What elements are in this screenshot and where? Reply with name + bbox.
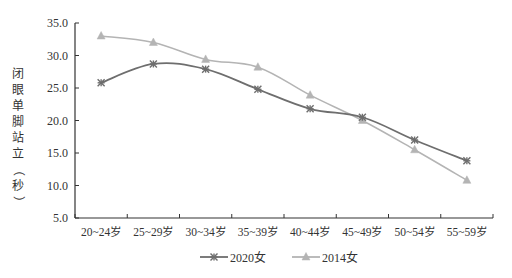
series-2014女 [97,32,471,184]
y-tick-label: 30.0 [47,49,68,63]
y-label-char: 站 [12,130,24,146]
x-axis: 20~24岁25~29岁30~34岁35~39岁40~44岁45~49岁50~5… [75,214,493,238]
line-chart: 5.010.015.020.025.030.035.0 20~24岁25~29岁… [0,0,512,278]
asterisk-marker-icon [254,86,261,93]
y-axis: 5.010.015.020.025.030.035.0 [47,16,79,225]
asterisk-marker-icon [411,137,418,144]
y-label-char: 闭 [12,66,24,82]
x-tick-label: 35~39岁 [238,225,278,238]
legend-item: 2020女 [200,250,266,265]
x-tick-label: 30~34岁 [186,225,226,238]
x-tick-label: 50~54岁 [395,225,435,238]
y-label-char: ） [10,196,26,208]
x-tick-label: 55~59岁 [447,225,487,238]
legend-label: 2014女 [322,250,358,265]
asterisk-marker-icon [98,79,105,86]
triangle-marker-icon [463,176,471,184]
x-tick-label: 25~29岁 [133,225,173,238]
asterisk-marker-icon [307,105,314,112]
triangle-marker-icon [97,32,105,40]
y-tick-label: 35.0 [47,16,68,30]
legend-item: 2014女 [292,250,358,265]
y-label-char: 眼 [12,82,24,98]
asterisk-marker-icon [202,66,209,73]
asterisk-marker-icon [359,114,366,121]
legend: 2020女2014女 [200,250,358,265]
y-tick-label: 25.0 [47,81,68,95]
y-label-char: 单 [12,98,24,114]
y-label-char: （ [10,164,26,176]
asterisk-marker-icon [150,60,157,67]
legend-label: 2020女 [230,250,266,265]
series-layer [97,32,471,184]
y-tick-label: 20.0 [47,114,68,128]
x-tick-label: 20~24岁 [81,225,121,238]
y-axis-label: 闭眼单脚站立（秒） [10,66,26,210]
y-label-char: 脚 [12,114,24,130]
x-tick-label: 45~49岁 [342,225,382,238]
x-tick-label: 40~44岁 [290,225,330,238]
asterisk-marker-icon [463,157,470,164]
y-tick-label: 10.0 [47,179,68,193]
y-label-char: 秒 [12,178,24,194]
y-tick-label: 5.0 [53,211,68,225]
y-label-char: 立 [12,146,24,162]
y-tick-label: 15.0 [47,146,68,160]
asterisk-marker-icon [211,254,218,261]
